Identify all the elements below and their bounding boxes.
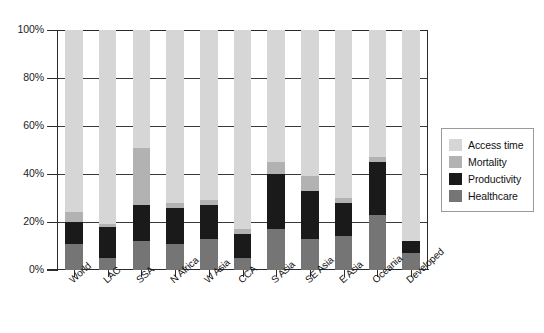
bar-cca xyxy=(234,30,252,270)
y-axis-label: 80% xyxy=(0,71,44,83)
bar-segment-access-time xyxy=(301,30,319,176)
legend-swatch-productivity xyxy=(449,173,462,185)
bar-segment-access-time xyxy=(234,30,252,229)
bar-segment-mortality xyxy=(166,203,184,208)
bar-segment-productivity xyxy=(65,222,83,244)
legend-swatch-mortality xyxy=(449,156,462,168)
bar-segment-mortality xyxy=(65,212,83,222)
stacked-bar-chart: 0%20%40%60%80%100% WorldLACSSAN AfricaW … xyxy=(0,0,544,333)
bar-segment-mortality xyxy=(301,176,319,190)
legend-label: Mortality xyxy=(468,156,507,168)
bar-segment-productivity xyxy=(402,241,420,253)
bar-segment-access-time xyxy=(369,30,387,157)
bar-segment-access-time xyxy=(99,30,117,224)
bar-segment-productivity xyxy=(234,234,252,258)
bar-segment-productivity xyxy=(335,203,353,237)
legend-swatch-healthcare xyxy=(449,190,462,202)
bar-segment-access-time xyxy=(166,30,184,203)
bar-se-asia xyxy=(301,30,319,270)
bars-layer xyxy=(57,30,428,270)
bar-segment-mortality xyxy=(200,200,218,205)
y-axis-tick xyxy=(47,270,58,271)
bar-segment-productivity xyxy=(369,162,387,215)
bar-s-asia xyxy=(267,30,285,270)
bar-segment-access-time xyxy=(402,30,420,241)
bar-ssa xyxy=(133,30,151,270)
bar-world xyxy=(65,30,83,270)
bar-developed xyxy=(402,30,420,270)
bar-segment-productivity xyxy=(267,174,285,229)
bar-lac xyxy=(99,30,117,270)
y-axis-label: 0% xyxy=(0,263,44,275)
bar-segment-productivity xyxy=(200,205,218,239)
y-axis-label: 60% xyxy=(0,119,44,131)
y-axis-label: 20% xyxy=(0,215,44,227)
bar-segment-productivity xyxy=(99,227,117,258)
legend-item: Productivity xyxy=(449,170,527,187)
bar-segment-mortality xyxy=(99,224,117,226)
bar-oceania xyxy=(369,30,387,270)
legend-item: Access time xyxy=(449,136,527,153)
legend-item: Mortality xyxy=(449,153,527,170)
bar-segment-mortality xyxy=(335,198,353,203)
bar-segment-productivity xyxy=(133,205,151,241)
legend-label: Healthcare xyxy=(468,190,518,202)
bar-segment-productivity xyxy=(166,208,184,244)
bar-segment-access-time xyxy=(65,30,83,212)
bar-segment-mortality xyxy=(369,157,387,162)
legend-swatch-access-time xyxy=(449,139,462,151)
legend-label: Productivity xyxy=(468,173,521,185)
bar-segment-access-time xyxy=(200,30,218,200)
bar-segment-access-time xyxy=(267,30,285,162)
chart-legend: Access time Mortality Productivity Healt… xyxy=(441,128,534,212)
bar-e-asia xyxy=(335,30,353,270)
bar-segment-access-time xyxy=(335,30,353,198)
y-axis-label: 40% xyxy=(0,167,44,179)
bar-n-africa xyxy=(166,30,184,270)
bar-segment-mortality xyxy=(234,229,252,234)
legend-label: Access time xyxy=(468,139,524,151)
bar-segment-mortality xyxy=(267,162,285,174)
bar-segment-healthcare xyxy=(369,215,387,270)
bar-segment-mortality xyxy=(133,148,151,206)
bar-w-asia xyxy=(200,30,218,270)
legend-item: Healthcare xyxy=(449,187,527,204)
bar-segment-productivity xyxy=(301,191,319,239)
bar-segment-access-time xyxy=(133,30,151,148)
y-axis-label: 100% xyxy=(0,23,44,35)
